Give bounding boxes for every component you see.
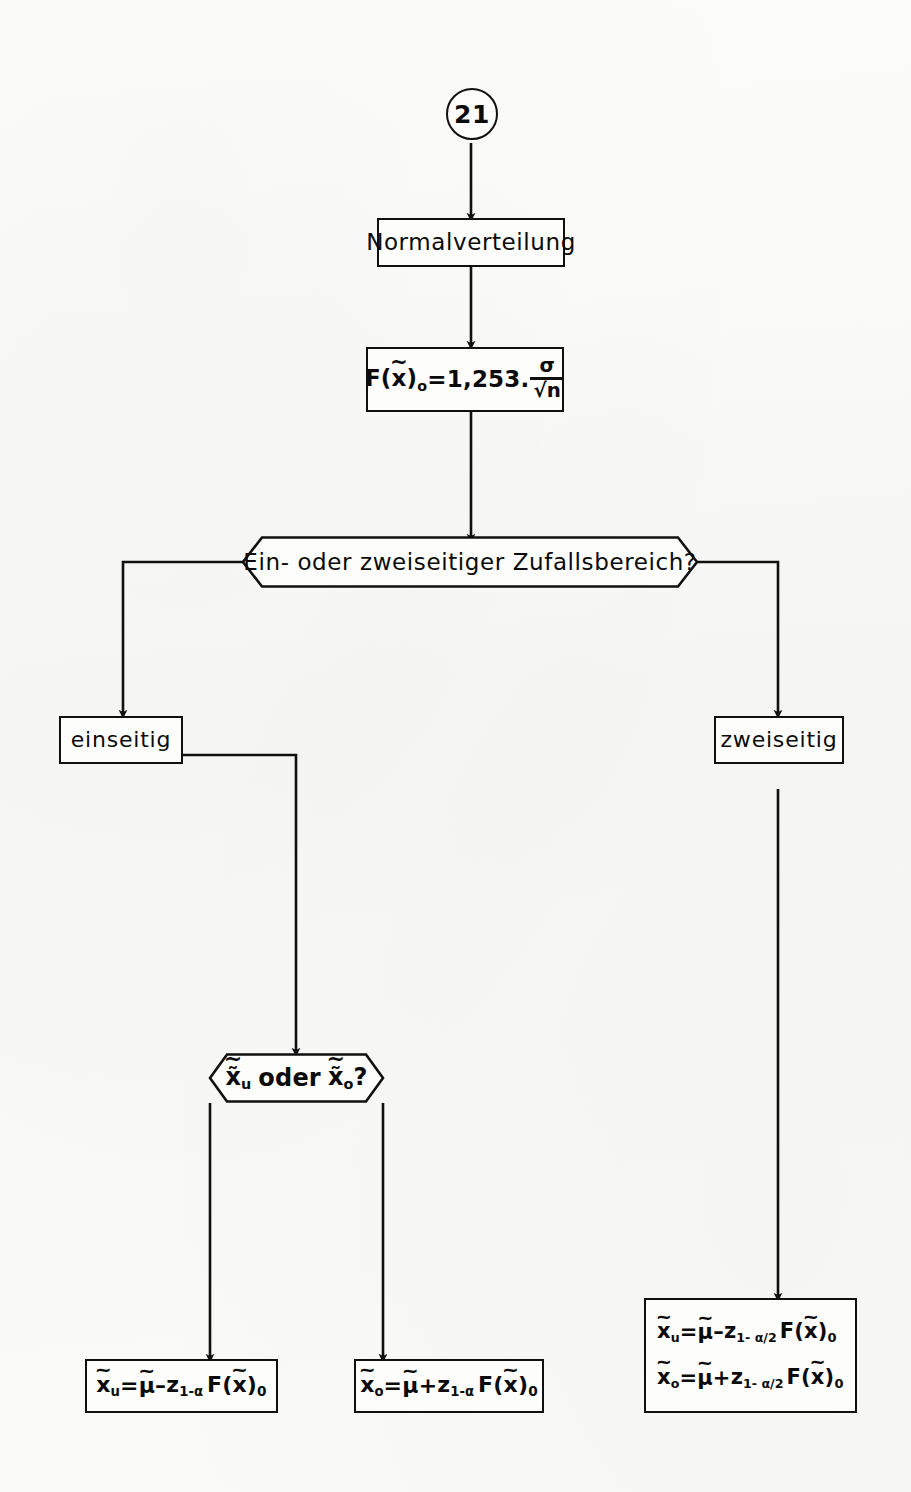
multiplication-dot: .: [521, 368, 530, 391]
lower-sign: –: [155, 1375, 166, 1397]
decision-ein-oder-zweiseitig: Ein- oder zweiseitiger Zufallsbereich?: [240, 535, 700, 589]
upper-z: z: [437, 1372, 450, 1397]
decision-xu-oder-xo: ~x̃u oder ~x̃o?: [207, 1052, 386, 1104]
lower-fx-sub: 0: [257, 1383, 267, 1399]
upper-sign: +: [419, 1375, 438, 1397]
node-einseitig: einseitig: [59, 716, 183, 764]
node-result-upper-bound: ~xo = ~µ + z1-α F(~x)0: [354, 1359, 544, 1413]
formula-lower-bound: ~xu = ~µ – z1-α F(~x)0: [96, 1374, 267, 1399]
two-sided-formula-stack: ~xu = ~µ – z1- α/2 F(~x)0 ~xo = ~µ + z1-…: [657, 1321, 844, 1390]
lower-lhs-sub: u: [111, 1384, 120, 1399]
equals-sign-1: =: [427, 368, 446, 391]
sigma-over-sqrt-n-fraction: σ √n: [530, 356, 564, 400]
ts-upper-sign: +: [713, 1368, 731, 1389]
question-mark: ?: [353, 1063, 367, 1091]
node-result-two-sided: ~xu = ~µ – z1- α/2 F(~x)0 ~xo = ~µ + z1-…: [644, 1298, 857, 1413]
ts-lower-fx-sub: 0: [828, 1330, 837, 1345]
edge-decision-to-two-sided: [697, 562, 778, 714]
lower-z: z: [166, 1372, 179, 1397]
xu-subscript: u: [241, 1076, 251, 1092]
standard-error-formula: F(~x)o = 1,253 . σ √n: [365, 357, 565, 401]
ts-upper-fx-sub: 0: [834, 1376, 843, 1391]
formula-upper-bound: ~xo = ~µ + z1-α F(~x)0: [360, 1374, 538, 1399]
fraction-denominator: √n: [530, 380, 564, 401]
ts-lower-mu: ~µ: [698, 1322, 714, 1343]
ts-lower-lhs-sub: u: [671, 1330, 680, 1345]
upper-fx-sub: 0: [528, 1383, 538, 1399]
ts-lower-sign: –: [713, 1322, 724, 1343]
upper-equals: =: [384, 1375, 403, 1397]
upper-z-sub: 1-α: [450, 1384, 474, 1399]
formula-two-sided-upper: ~xo = ~µ + z1- α/2 F(~x)0: [657, 1367, 844, 1390]
edge-decision-to-one-sided: [123, 562, 243, 714]
page-connector-label: 21: [454, 102, 490, 127]
ts-lower-equals: =: [680, 1322, 698, 1343]
decision-bound-label: ~x̃u oder ~x̃o?: [225, 1065, 367, 1092]
oder-word: oder: [251, 1066, 328, 1090]
page-connector-circle: 21: [446, 88, 498, 140]
fx-subscript-o: o: [417, 377, 427, 393]
lower-z-sub: 1-α: [179, 1384, 203, 1399]
decision-sides-label: Ein- oder zweiseitiger Zufallsbereich?: [243, 551, 696, 574]
xo-subscript: o: [344, 1076, 354, 1092]
diagram-page: 21 Normalverteilung F(~x)o = 1,253 . σ √…: [0, 0, 911, 1492]
lower-equals: =: [120, 1375, 139, 1397]
lower-mu: ~µ: [139, 1375, 155, 1397]
node-standard-error-formula: F(~x)o = 1,253 . σ √n: [366, 347, 564, 412]
ts-upper-z: z: [731, 1365, 743, 1389]
ts-upper-mu: ~µ: [697, 1368, 713, 1389]
edge-one-sided-to-bound-decision: [183, 755, 296, 1052]
node-zweiseitig: zweiseitig: [714, 716, 844, 764]
fraction-numerator: σ: [536, 356, 558, 377]
ts-lower-z-sub: 1- α/2: [736, 1330, 776, 1345]
upper-mu: ~µ: [402, 1375, 418, 1397]
coefficient-value: 1,253: [447, 368, 521, 391]
node-normalverteilung: Normalverteilung: [377, 218, 565, 267]
ts-upper-lhs-sub: o: [671, 1375, 680, 1390]
node-einseitig-label: einseitig: [71, 729, 172, 751]
upper-lhs-sub: o: [375, 1384, 384, 1399]
ts-upper-z-sub: 1- α/2: [743, 1375, 783, 1390]
node-zweiseitig-label: zweiseitig: [720, 729, 837, 751]
ts-upper-equals: =: [679, 1368, 697, 1389]
formula-two-sided-lower: ~xu = ~µ – z1- α/2 F(~x)0: [657, 1321, 837, 1344]
ts-lower-z: z: [724, 1319, 736, 1343]
node-normalverteilung-label: Normalverteilung: [366, 231, 576, 254]
node-result-lower-bound: ~xu = ~µ – z1-α F(~x)0: [85, 1359, 278, 1413]
